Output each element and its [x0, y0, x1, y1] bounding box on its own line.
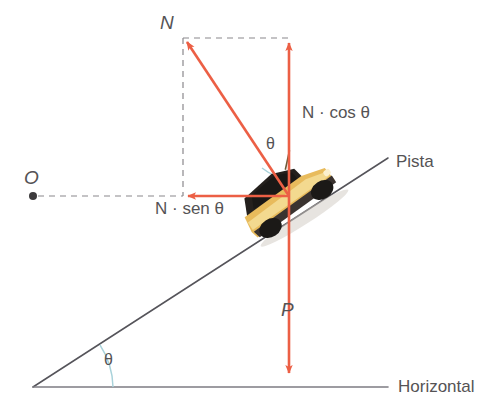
physics-diagram-svg: [0, 0, 500, 419]
car-antenna: [278, 150, 297, 169]
normal-angle-label: θ: [266, 136, 275, 152]
normal-force-label: N: [160, 13, 174, 32]
weight-force-label: P: [281, 300, 294, 319]
incline-angle-label: θ: [104, 352, 113, 368]
track-lines: [33, 158, 388, 387]
normal-sen-component-label: N · sen θ: [155, 200, 224, 217]
construction-dashed-lines: [38, 38, 290, 196]
origin-label: O: [24, 168, 39, 187]
normal-cos-component-label: N · cos θ: [302, 104, 370, 121]
incline-line: [33, 158, 388, 387]
normal-force-vector: [187, 42, 289, 196]
incline-label: Pista: [396, 153, 434, 170]
diagram-canvas: N O N · cos θ N · sen θ P Pista Horizont…: [0, 0, 500, 419]
horizontal-label: Horizontal: [398, 378, 475, 395]
origin-point-dot: [29, 192, 37, 200]
